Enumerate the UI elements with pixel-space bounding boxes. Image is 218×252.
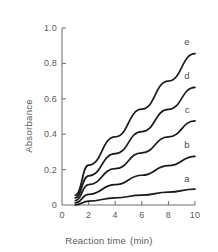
- x-tick-label: 6: [139, 210, 144, 220]
- y-tick-label: 0: [14, 200, 57, 210]
- series-label-a: a: [184, 172, 189, 183]
- x-axis-title: Reaction time(min): [0, 235, 218, 246]
- y-tick-label: 1.0: [14, 23, 57, 33]
- x-tick-label: 10: [190, 210, 200, 220]
- y-axis-title: Absorbance: [23, 99, 34, 153]
- y-tick-label: 0.2: [14, 165, 57, 175]
- series-label-b: b: [184, 138, 189, 149]
- y-tick-label: 0.8: [14, 58, 57, 68]
- x-tick-label: 4: [113, 210, 118, 220]
- series-line-a: [75, 189, 195, 205]
- y-tick-label: 0.4: [14, 129, 57, 139]
- x-tick-label: 0: [59, 210, 64, 220]
- x-axis-title-text: Reaction time: [65, 235, 126, 246]
- series-label-d: d: [184, 69, 189, 80]
- series-line-d: [75, 87, 195, 198]
- series-label-e: e: [184, 36, 189, 47]
- chart-container: 00.20.40.60.81.0 0246810 abcde Absorbanc…: [0, 0, 218, 252]
- data-series-group: [75, 54, 195, 205]
- series-label-c: c: [185, 103, 190, 114]
- x-tick-label: 2: [86, 210, 91, 220]
- x-axis-unit: (min): [130, 235, 153, 246]
- y-tick-label: 0.6: [14, 94, 57, 104]
- x-tick-label: 8: [166, 210, 171, 220]
